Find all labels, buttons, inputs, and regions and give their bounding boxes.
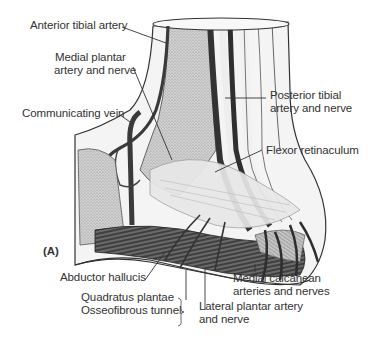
label-flexor-retinaculum: Flexor retinaculum bbox=[266, 144, 359, 157]
label-posterior-tibial-line1: Posterior tibial bbox=[270, 89, 341, 102]
label-posterior-tibial-line2: artery and nerve bbox=[270, 102, 352, 115]
label-communicating-vein: Communicating vein bbox=[22, 107, 124, 120]
label-medial-calcanean-line1: Medial calcanean bbox=[233, 272, 321, 285]
label-quadratus-plantae: Quadratus plantae bbox=[81, 291, 174, 304]
panel-label: (A) bbox=[43, 245, 59, 258]
label-medial-calcanean-line2: arteries and nerves bbox=[233, 285, 330, 298]
label-lateral-plantar-line2: and nerve bbox=[199, 313, 249, 326]
label-lateral-plantar-line1: Lateral plantar artery bbox=[199, 300, 303, 313]
label-osseofibrous-tunnel: Osseofibrous tunnel bbox=[81, 304, 181, 317]
label-abductor-hallucis: Abductor hallucis bbox=[60, 271, 146, 284]
label-medial-plantar-line1: Medial plantar bbox=[55, 51, 126, 64]
label-anterior-tibial-artery: Anterior tibial artery bbox=[30, 19, 128, 32]
label-medial-plantar-line2: artery and nerve bbox=[54, 64, 136, 77]
section-cut bbox=[153, 18, 289, 30]
anatomy-figure: Anterior tibial artery Medial plantar ar… bbox=[0, 0, 373, 338]
